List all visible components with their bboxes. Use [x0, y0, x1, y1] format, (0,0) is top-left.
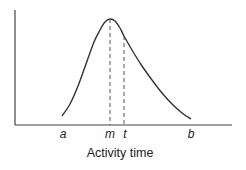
tick-label-t: t [123, 127, 126, 141]
distribution-chart [0, 0, 246, 170]
tick-label-a: a [60, 127, 67, 141]
tick-label-m: m [105, 127, 115, 141]
distribution-curve [62, 19, 191, 119]
x-axis-title: Activity time [87, 146, 154, 160]
tick-label-b: b [188, 127, 195, 141]
